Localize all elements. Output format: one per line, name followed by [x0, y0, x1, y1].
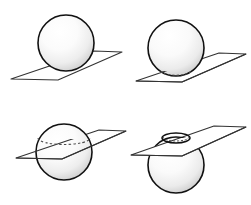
panel-small-circle-upper [136, 20, 246, 82]
panel-tangent-above [11, 15, 122, 80]
panel-great-circle [16, 124, 126, 180]
figure-canvas [0, 0, 251, 205]
sphere-upper-cap-2 [148, 20, 204, 76]
sphere-plane-intersection-figure: Sphere resting tangent on the plane Sphe… [0, 0, 251, 205]
panel-small-circle-lower [131, 126, 246, 193]
sphere-body-1 [38, 15, 94, 71]
